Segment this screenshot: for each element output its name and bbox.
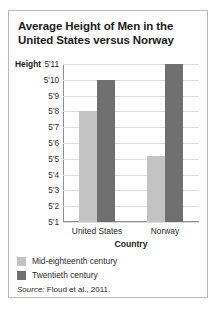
legend-swatch xyxy=(17,271,26,280)
y-axis-title: Height xyxy=(15,59,41,69)
bar xyxy=(97,80,115,222)
legend-item: Twentieth century xyxy=(17,268,117,282)
chart-card: Average Height of Men in the United Stat… xyxy=(8,10,208,298)
bar xyxy=(79,111,97,222)
bar xyxy=(147,156,165,222)
plot-area: 5'15'25'35'45'55'65'75'85'95'105'11 Unit… xyxy=(63,64,199,222)
chart-legend: Mid-eighteenth centuryTwentieth century xyxy=(17,254,117,282)
source-citation: Floud et al., 2011. xyxy=(47,285,110,294)
source-note: Source: Floud et al., 2011. xyxy=(17,285,110,294)
y-axis-tick-label: 5'9 xyxy=(48,91,59,100)
y-axis-tick-label: 5'7 xyxy=(48,123,59,132)
y-axis-tick-label: 5'11 xyxy=(44,60,59,69)
y-axis-tick-label: 5'10 xyxy=(44,75,59,84)
source-keyword: Source: xyxy=(17,285,45,294)
y-axis-tick-label: 5'1 xyxy=(48,218,59,227)
chart-title: Average Height of Men in the United Stat… xyxy=(18,19,198,47)
y-axis-tick-label: 5'8 xyxy=(48,107,59,116)
x-axis-category-label: Norway xyxy=(151,226,179,236)
gridline xyxy=(63,222,199,223)
y-axis-tick-label: 5'5 xyxy=(48,154,59,163)
y-axis-tick-label: 5'2 xyxy=(48,202,59,211)
y-axis-tick-label: 5'6 xyxy=(48,139,59,148)
legend-label: Mid-eighteenth century xyxy=(32,256,117,266)
legend-swatch xyxy=(17,257,26,266)
legend-label: Twentieth century xyxy=(32,270,98,280)
y-axis-tick-label: 5'4 xyxy=(48,170,59,179)
x-axis-title: Country xyxy=(63,239,199,249)
y-axis-tick-label: 5'3 xyxy=(48,186,59,195)
bar xyxy=(165,64,183,222)
x-axis-category-label: United States xyxy=(72,226,122,236)
legend-item: Mid-eighteenth century xyxy=(17,254,117,268)
